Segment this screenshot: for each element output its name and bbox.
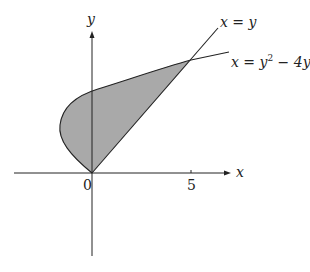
y-axis-label: y <box>86 11 96 27</box>
origin-label: 0 <box>83 177 92 193</box>
y-axis-arrow-icon <box>90 31 95 38</box>
diagram-canvas: x y 0 5 x = y x = y2 − 4y <box>0 0 310 272</box>
shaded-region <box>60 60 191 173</box>
line-label: x = y <box>220 14 258 30</box>
x-axis-arrow-icon <box>224 171 231 176</box>
x-tick-label-5: 5 <box>187 177 196 193</box>
x-axis-label: x <box>236 164 244 180</box>
parabola-label: x = y2 − 4y <box>231 53 310 70</box>
